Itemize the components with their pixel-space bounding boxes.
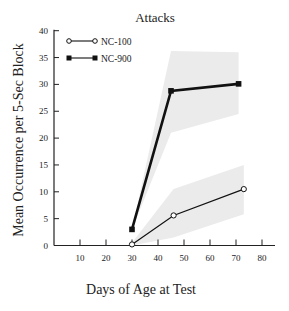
y-tick-label: 10: [39, 187, 49, 197]
x-tick-label: 30: [128, 253, 138, 263]
x-tick-label: 70: [232, 253, 242, 263]
y-tick-label: 35: [39, 53, 49, 63]
filled-square-marker: [129, 227, 135, 233]
legend-open-circle-icon: [67, 39, 72, 44]
open-circle-marker: [241, 187, 246, 192]
legend-label: NC-900: [101, 54, 132, 64]
chart: 05101520253035401020304050607080 NC-100N…: [0, 0, 289, 311]
x-tick-label: 40: [154, 253, 164, 263]
y-tick-label: 5: [44, 214, 49, 224]
open-circle-marker: [129, 242, 134, 247]
x-tick-label: 10: [76, 253, 86, 263]
x-axis-label: Days of Age at Test: [86, 282, 196, 297]
y-tick-label: 40: [39, 26, 49, 36]
x-tick-label: 50: [180, 253, 190, 263]
legend-filled-square-icon: [67, 56, 72, 61]
confidence-bands: [132, 51, 244, 245]
filled-square-marker: [236, 81, 242, 87]
y-tick-label: 30: [39, 79, 49, 89]
chart-title: Attacks: [135, 10, 175, 25]
x-tick-label: 60: [206, 253, 216, 263]
y-tick-label: 0: [44, 241, 49, 251]
y-tick-label: 15: [39, 160, 49, 170]
y-axis-label: Mean Occurrence per 5-Sec Block: [11, 43, 26, 237]
legend-open-circle-icon: [93, 39, 98, 44]
x-tick-label: 80: [258, 253, 268, 263]
y-tick-label: 20: [39, 133, 49, 143]
legend-label: NC-100: [101, 37, 132, 47]
open-circle-marker: [171, 213, 176, 218]
x-tick-label: 20: [102, 253, 112, 263]
legend: NC-100NC-900: [67, 37, 132, 64]
y-tick-label: 25: [39, 106, 49, 116]
filled-square-marker: [168, 88, 174, 94]
legend-filled-square-icon: [93, 56, 98, 61]
